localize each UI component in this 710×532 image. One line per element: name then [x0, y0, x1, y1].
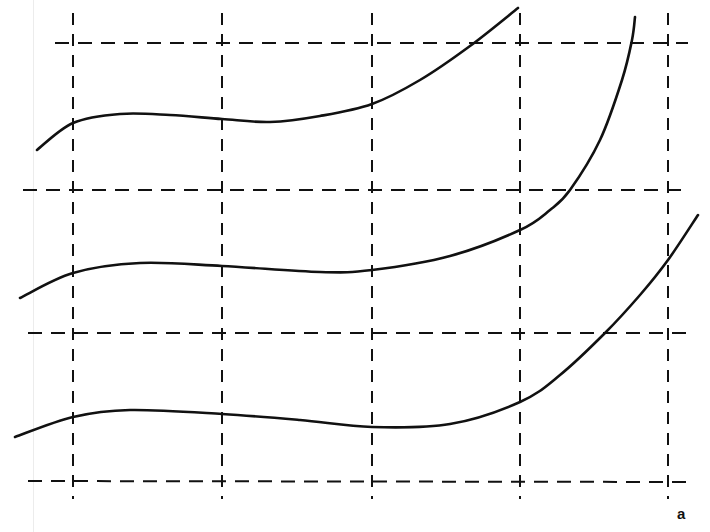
grid-line-horizontal	[28, 481, 690, 482]
middle-curve	[20, 17, 635, 298]
curves	[15, 8, 698, 437]
top-curve	[37, 8, 518, 150]
bottom-curve	[15, 215, 698, 437]
figure-panel: a	[0, 0, 710, 532]
curves-grid-diagram	[0, 0, 710, 532]
panel-label: a	[677, 505, 685, 522]
